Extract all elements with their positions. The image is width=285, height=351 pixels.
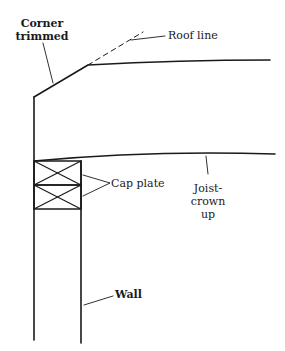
- leader-corner-trimmed: [43, 43, 53, 83]
- label-roof-line: Roof line: [168, 29, 218, 42]
- label-joist-2: crown: [191, 195, 226, 208]
- label-wall: Wall: [114, 288, 142, 301]
- label-corner-trimmed-1: Corner: [21, 17, 64, 30]
- joist-crown-up-line: [34, 153, 275, 161]
- label-cap-plate: Cap plate: [111, 177, 165, 190]
- diagram-canvas: Corner trimmed Roof line Cap plate Joist…: [0, 0, 285, 351]
- label-corner-trimmed-2: trimmed: [15, 30, 68, 43]
- cap-plate-bottom: [34, 185, 81, 209]
- label-joist-3: up: [201, 208, 215, 221]
- rafter-top-edge: [34, 60, 270, 97]
- roof-line-dashed: [88, 32, 143, 65]
- cap-plate-top: [34, 161, 81, 185]
- label-joist-1: Joist-: [193, 182, 223, 195]
- leader-joist: [206, 156, 208, 174]
- leader-cap-plate: [83, 175, 110, 196]
- leader-wall: [84, 296, 113, 305]
